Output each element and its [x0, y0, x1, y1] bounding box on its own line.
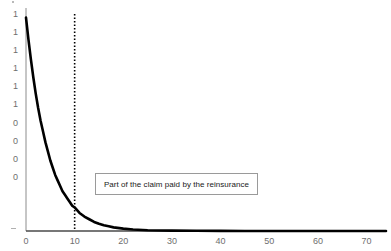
y-tick-label: 0: [2, 172, 18, 182]
x-tick-label: 10: [63, 236, 87, 246]
reinsurance-label-text: Part of the claim paid by the reinsuranc…: [104, 180, 249, 189]
y-tick-label: 0: [2, 136, 18, 146]
x-tick-label: 30: [160, 236, 184, 246]
x-tick-label: 40: [209, 236, 233, 246]
y-tick-label: 0: [2, 154, 18, 164]
x-tick-label: 70: [355, 236, 379, 246]
y-tick-label: 1: [2, 63, 18, 73]
y-tick-label: 1: [2, 45, 18, 55]
y-tick-label: 1: [2, 99, 18, 109]
y-tick-label: 1: [2, 9, 18, 19]
y-tick-label: 1: [2, 27, 18, 37]
claim-density-curve: [26, 18, 386, 231]
x-tick-label: 0: [14, 236, 38, 246]
reinsurance-label-box: Part of the claim paid by the reinsuranc…: [95, 173, 258, 195]
y-tick-label: 1: [2, 81, 18, 91]
x-tick-label: 50: [257, 236, 281, 246]
x-tick-label: 60: [306, 236, 330, 246]
chart-container: 1111110000 010203040506070 Part of the c…: [0, 0, 391, 251]
x-tick-label: 20: [111, 236, 135, 246]
plot-area: [0, 0, 391, 251]
y-tick-label: 0: [2, 118, 18, 128]
